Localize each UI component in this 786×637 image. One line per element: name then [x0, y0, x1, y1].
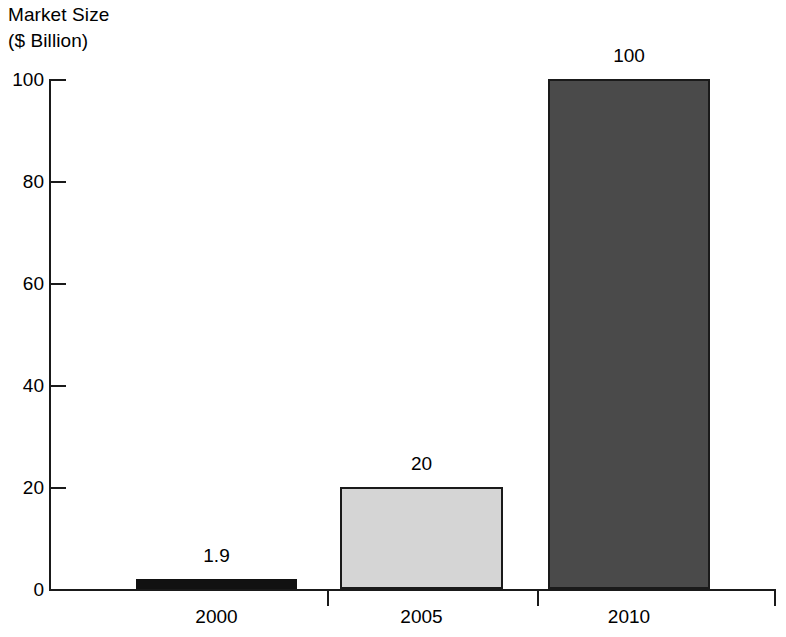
- y-axis-line: [49, 79, 51, 591]
- x-axis-category-2000: 2000: [136, 606, 297, 628]
- x-axis-category-2005: 2005: [340, 606, 503, 628]
- y-axis-label-20: 20: [0, 478, 44, 497]
- bar-chart-figure: Market Size ($ Billion) 100 80 60 40 20 …: [0, 0, 786, 637]
- bar-2010: [548, 79, 710, 589]
- y-axis-tick-60: [51, 283, 66, 285]
- bar-value-2010: 100: [548, 46, 710, 65]
- bar-2005: [340, 487, 503, 589]
- bar-value-2000: 1.9: [136, 546, 297, 565]
- y-axis-label-40: 40: [0, 376, 44, 395]
- x-axis-category-2010: 2010: [548, 606, 710, 628]
- bar-2000: [136, 579, 297, 589]
- y-axis-label-80: 80: [0, 172, 44, 191]
- y-axis-label-60: 60: [0, 274, 44, 293]
- y-axis-label-0: 0: [0, 580, 44, 599]
- y-axis-tick-80: [51, 181, 66, 183]
- x-axis-tick-1: [327, 591, 329, 606]
- y-axis-tick-40: [51, 385, 66, 387]
- y-axis-tick-20: [51, 487, 66, 489]
- bar-value-2005: 20: [340, 454, 503, 473]
- plot-area: 100 80 60 40 20 0 1.9 20 100 2000 2005 2…: [0, 0, 786, 637]
- x-axis-tick-3: [774, 591, 776, 606]
- x-axis-line: [49, 589, 776, 591]
- y-axis-label-100: 100: [0, 70, 44, 89]
- y-axis-tick-100: [51, 79, 66, 81]
- x-axis-tick-2: [537, 591, 539, 606]
